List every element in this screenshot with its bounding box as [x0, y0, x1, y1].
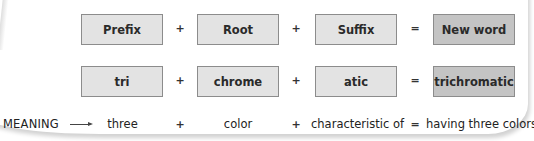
root-example-box: chrome — [197, 66, 279, 97]
arrow-right-icon — [70, 124, 90, 125]
suffix-meaning: characteristic of — [311, 117, 401, 131]
plus-operator: + — [286, 22, 306, 35]
equals-operator: = — [405, 118, 425, 131]
meaning-label: MEANING — [3, 117, 59, 131]
root-example-label: chrome — [214, 75, 262, 89]
new-word-example-box: trichromatic — [433, 66, 515, 97]
plus-operator: + — [170, 22, 190, 35]
prefix-example-label: tri — [114, 75, 129, 89]
suffix-header-label: Suffix — [338, 23, 375, 37]
new-word-example-label: trichromatic — [434, 75, 514, 89]
prefix-header-label: Prefix — [103, 23, 141, 37]
suffix-header-box: Suffix — [315, 14, 397, 45]
root-meaning: color — [214, 117, 262, 131]
equals-operator: = — [405, 22, 425, 35]
plus-operator: + — [286, 118, 306, 131]
new-word-header-box: New word — [433, 14, 515, 45]
prefix-meaning: three — [100, 117, 145, 131]
new-word-header-label: New word — [442, 23, 506, 37]
plus-operator: + — [286, 74, 306, 87]
equals-operator: = — [405, 74, 425, 87]
root-header-label: Root — [223, 23, 253, 37]
new-word-meaning: having three colors — [426, 117, 526, 131]
plus-operator: + — [170, 74, 190, 87]
prefix-header-box: Prefix — [81, 14, 163, 45]
root-header-box: Root — [197, 14, 279, 45]
prefix-example-box: tri — [81, 66, 163, 97]
plus-operator: + — [170, 118, 190, 131]
suffix-example-box: atic — [315, 66, 397, 97]
suffix-example-label: atic — [344, 75, 368, 89]
